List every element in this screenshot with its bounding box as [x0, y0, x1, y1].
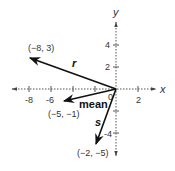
y-tick-label-neg4: -4 [104, 129, 112, 139]
y-tick-label-2: 2 [105, 62, 110, 72]
vector-r-label: r [72, 57, 77, 69]
vector-s-endpoint-label: (−2, −5) [77, 148, 109, 158]
x-axis-label: x [159, 83, 166, 95]
x-tick-label-2: 2 [136, 95, 141, 105]
vector-s-label: s [95, 116, 101, 128]
vector-r-endpoint-label: (−8, 3) [28, 43, 54, 53]
vector-diagram: x y -8 -6 2 4 2 -4 0 r (−8, 3) mean (−5,… [0, 0, 175, 171]
x-axis [12, 86, 156, 92]
x-tick-label-neg8: -8 [25, 95, 33, 105]
x-tick-label-neg6: -6 [46, 95, 54, 105]
y-axis-label: y [112, 6, 120, 18]
y-tick-label-4: 4 [105, 40, 110, 50]
vector-mean-endpoint-label: (−5, −1) [48, 109, 80, 119]
vector-mean-label: mean [79, 98, 108, 110]
